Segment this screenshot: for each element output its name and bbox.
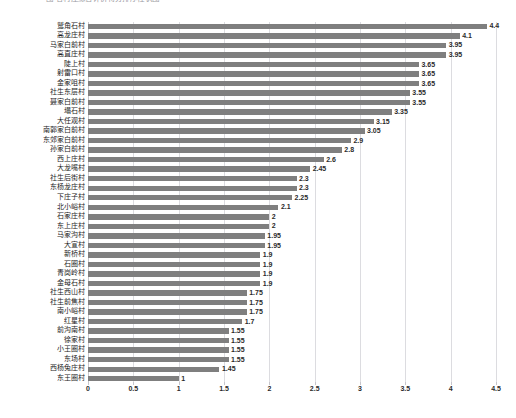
bar-row: 西杨兔庄村1.45 [88, 365, 496, 375]
x-tick-label: 2.5 [310, 385, 320, 392]
category-label: 青岗岭村 [57, 269, 85, 279]
bar-row: 聂家白前村3.55 [88, 98, 496, 108]
bar[interactable] [88, 347, 229, 352]
bar[interactable] [88, 205, 278, 210]
bar[interactable] [88, 271, 260, 276]
bar-value-label: 2.9 [353, 136, 363, 146]
bar-value-label: 2 [272, 221, 276, 231]
bar[interactable] [88, 100, 410, 105]
bar-row: 金母石村1.9 [88, 279, 496, 289]
bar-value-label: 2.45 [313, 164, 327, 174]
bar[interactable] [88, 319, 242, 324]
x-tick-label: 2 [267, 385, 271, 392]
bar[interactable] [88, 252, 260, 257]
bar-row: 西上庄村2.6 [88, 155, 496, 165]
bar[interactable] [88, 166, 310, 171]
bar[interactable] [88, 328, 229, 333]
bar-row: 南小峪村1.75 [88, 308, 496, 318]
bar-row: 北小峪村2.1 [88, 203, 496, 213]
bar[interactable] [88, 357, 229, 362]
bar[interactable] [88, 195, 292, 200]
bar-value-label: 1.55 [231, 345, 245, 355]
plot-area: 鹫角石村4.4高龙庄村4.1马家白前村3.95高直庄村3.95陡上村3.65射雷… [88, 22, 496, 384]
gridline [496, 22, 497, 384]
bar-value-label: 1.55 [231, 355, 245, 365]
x-tick-label: 4.5 [491, 385, 501, 392]
bar[interactable] [88, 376, 179, 381]
bar-value-label: 2.3 [299, 183, 309, 193]
bar[interactable] [88, 224, 269, 229]
bar-row: 大宣村1.95 [88, 241, 496, 251]
category-label: 社生东层村 [50, 88, 85, 98]
bar-value-label: 1.75 [249, 288, 263, 298]
x-tick-label: 0.5 [128, 385, 138, 392]
category-label: 石家庄村 [57, 212, 85, 222]
bar[interactable] [88, 52, 446, 57]
category-label: 北小峪村 [57, 203, 85, 213]
category-label: 大任观村 [57, 117, 85, 127]
category-label: 西上庄村 [57, 155, 85, 165]
bar-row: 马家白前村3.95 [88, 41, 496, 51]
category-label: 下庄子村 [57, 193, 85, 203]
bar[interactable] [88, 214, 269, 219]
bar[interactable] [88, 367, 219, 372]
bar[interactable] [88, 290, 247, 295]
category-label: 石圈村 [64, 260, 85, 270]
bar[interactable] [88, 338, 229, 343]
x-tick-label: 4 [449, 385, 453, 392]
category-label: 孙家白前村 [50, 145, 85, 155]
bar-row: 石家庄村2 [88, 213, 496, 223]
bar[interactable] [88, 119, 374, 124]
bar-row: 社生东层村3.55 [88, 89, 496, 99]
category-label: 前沟南村 [57, 326, 85, 336]
bar-value-label: 1.9 [263, 250, 273, 260]
category-label: 新桥村 [64, 250, 85, 260]
bar-value-label: 3.15 [376, 117, 390, 127]
bar[interactable] [88, 243, 265, 248]
category-label: 陡上村 [64, 60, 85, 70]
bar[interactable] [88, 71, 419, 76]
bar[interactable] [88, 109, 392, 114]
bar-row: 东杨龙庄村2.3 [88, 184, 496, 194]
bar-value-label: 3.65 [421, 69, 435, 79]
bar[interactable] [88, 81, 419, 86]
bar[interactable] [88, 186, 297, 191]
category-label: 社生前焦村 [50, 298, 85, 308]
bar[interactable] [88, 43, 446, 48]
bar-value-label: 1.75 [249, 298, 263, 308]
x-axis: 00.511.522.533.544.5 [88, 384, 496, 400]
bar-row: 东场村1.55 [88, 355, 496, 365]
bar-row: 大龙嘴村2.45 [88, 165, 496, 175]
bar-row: 南郭家白前村3.05 [88, 127, 496, 137]
category-label: 大龙嘴村 [57, 164, 85, 174]
bar-row: 孙家白前村2.8 [88, 146, 496, 156]
bar[interactable] [88, 128, 365, 133]
bar[interactable] [88, 147, 342, 152]
bar[interactable] [88, 90, 410, 95]
bar[interactable] [88, 33, 460, 38]
bar[interactable] [88, 157, 324, 162]
bar[interactable] [88, 281, 260, 286]
bar[interactable] [88, 233, 265, 238]
bar-row: 塌石村3.35 [88, 108, 496, 118]
category-label: 西杨兔庄村 [50, 364, 85, 374]
bar-row: 大任观村3.15 [88, 117, 496, 127]
bar[interactable] [88, 24, 487, 29]
bar[interactable] [88, 62, 419, 67]
bar[interactable] [88, 138, 351, 143]
bar-value-label: 3.95 [449, 40, 463, 50]
category-label: 大宣村 [64, 241, 85, 251]
bar-row: 新桥村1.9 [88, 251, 496, 261]
x-tick-label: 1.5 [219, 385, 229, 392]
bar[interactable] [88, 262, 260, 267]
bar-value-label: 2.1 [281, 202, 291, 212]
bar[interactable] [88, 176, 297, 181]
bar[interactable] [88, 300, 247, 305]
x-tick-label: 3 [358, 385, 362, 392]
bar-value-label: 1.45 [222, 364, 236, 374]
bar-row: 徐家村1.55 [88, 336, 496, 346]
bar[interactable] [88, 309, 247, 314]
bar-row: 东郊家白前村2.9 [88, 136, 496, 146]
x-tick-label: 0 [86, 385, 90, 392]
bar-value-label: 2.25 [295, 193, 309, 203]
